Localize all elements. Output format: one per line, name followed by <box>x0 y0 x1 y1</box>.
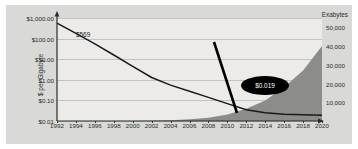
x-axis-tick-label: 2012 <box>239 122 253 129</box>
x-axis-tick-label: 1994 <box>69 122 83 129</box>
y-axis-right-tick-label: 40,000 <box>326 43 345 50</box>
y-axis-right-tick-label: 50,000 <box>326 24 345 31</box>
y-axis-left-tick-label: $100.00 <box>32 35 54 42</box>
series-layer <box>57 18 322 121</box>
plot-area: $1,000.00$100.00$10.00$1.00$0.10$0.01 50… <box>57 18 322 121</box>
y-axis-left-tick-label: $0.10 <box>39 97 54 104</box>
x-axis-tick-label: 2016 <box>277 122 291 129</box>
y-axis-left-tick-label: $1.00 <box>39 76 54 83</box>
x-axis-tick-label: 2010 <box>220 122 234 129</box>
end-price-callout: $0.019 <box>241 76 289 95</box>
end-price-callout-label: $0.019 <box>255 82 275 89</box>
y-axis-left-tick-label: $1,000.00 <box>26 15 54 22</box>
y-axis-arrow-icon <box>55 11 60 17</box>
y-axis-right-tick-label: 30,000 <box>326 61 345 68</box>
x-axis-tick-label: 2000 <box>126 122 140 129</box>
y-axis-right-tick-label: 10,000 <box>326 99 345 106</box>
x-axis-tick-label: 2002 <box>145 122 159 129</box>
x-axis-tick-label: 2008 <box>202 122 216 129</box>
x-axis-tick-label: 1996 <box>88 122 102 129</box>
secondary-y-axis-title: Exabytes <box>322 11 348 18</box>
x-axis-tick-label: 2018 <box>296 122 310 129</box>
x-axis-tick-label: 1998 <box>107 122 121 129</box>
start-price-annotation: $569 <box>76 31 90 38</box>
chart-panel: $ per Gigabyte Exabytes $1,000.00$100.00… <box>6 5 352 144</box>
x-axis-tick-label: 2004 <box>164 122 178 129</box>
x-axis-tick-label: 1992 <box>50 122 64 129</box>
x-axis-tick-label: 2014 <box>258 122 272 129</box>
x-axis-tick-label: 2020 <box>315 122 329 129</box>
y-axis-left-tick-label: $10.00 <box>35 56 54 63</box>
x-axis-tick-label: 2006 <box>183 122 197 129</box>
y-axis-right-tick-label: 20,000 <box>326 80 345 87</box>
